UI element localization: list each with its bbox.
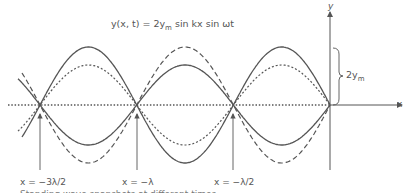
amplitude-label: 2ym [346,69,365,83]
wave-equation: y(x, t) = 2ym sin kx sin ωt [111,18,234,32]
amplitude-brace [333,48,343,105]
node-label-3: x = −λ/2 [214,177,254,187]
caption-cutoff: Standing wave snapshots at different tim… [20,189,216,193]
node-label-2: x = −λ [122,177,153,187]
x-axis-label: x [397,99,402,109]
node-label-1: x = −3λ/2 [20,177,66,187]
y-axis-label: y [328,1,333,11]
